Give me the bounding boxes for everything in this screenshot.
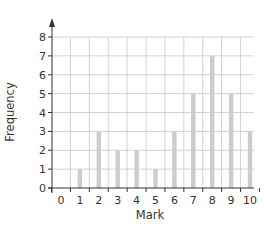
bar-mark-5 — [153, 169, 157, 188]
x-tick-label: 0 — [58, 194, 65, 207]
x-axis-title: Mark — [136, 208, 165, 222]
x-tick-label: 5 — [152, 194, 159, 207]
bar-mark-9 — [229, 94, 233, 188]
y-tick-label: 5 — [39, 88, 46, 101]
grid-lines — [52, 37, 254, 188]
x-tick-label: 2 — [95, 194, 102, 207]
x-tick-label: 9 — [228, 194, 235, 207]
bar-mark-1 — [78, 169, 82, 188]
y-axis-title: Frequency — [3, 82, 17, 142]
y-tick-label: 3 — [39, 125, 46, 138]
y-axis-ticks: 012345678 — [39, 31, 52, 195]
x-tick-label: 4 — [133, 194, 140, 207]
y-tick-label: 0 — [39, 182, 46, 195]
y-axis-arrow-icon — [49, 18, 55, 27]
x-tick-label: 7 — [190, 194, 197, 207]
bar-mark-10 — [248, 131, 252, 188]
bar-mark-7 — [191, 94, 195, 188]
x-tick-label: 1 — [76, 194, 83, 207]
y-tick-label: 7 — [39, 50, 46, 63]
bar-mark-4 — [134, 150, 138, 188]
bar-chart: 012345678 012345678910 Mark Frequency — [0, 0, 264, 230]
bar-mark-6 — [172, 131, 176, 188]
x-tick-label: 3 — [114, 194, 121, 207]
y-tick-label: 4 — [39, 107, 46, 120]
y-tick-label: 2 — [39, 144, 46, 157]
axes — [48, 18, 254, 193]
x-axis-ticks: 012345678910 — [52, 188, 260, 207]
x-tick-label: 10 — [243, 194, 257, 207]
x-tick-label: 8 — [209, 194, 216, 207]
bar-mark-3 — [116, 150, 120, 188]
x-tick-label: 6 — [171, 194, 178, 207]
bar-mark-2 — [97, 131, 101, 188]
y-tick-label: 1 — [39, 163, 46, 176]
y-tick-label: 8 — [39, 31, 46, 44]
y-tick-label: 6 — [39, 69, 46, 82]
bar-mark-8 — [210, 56, 214, 188]
